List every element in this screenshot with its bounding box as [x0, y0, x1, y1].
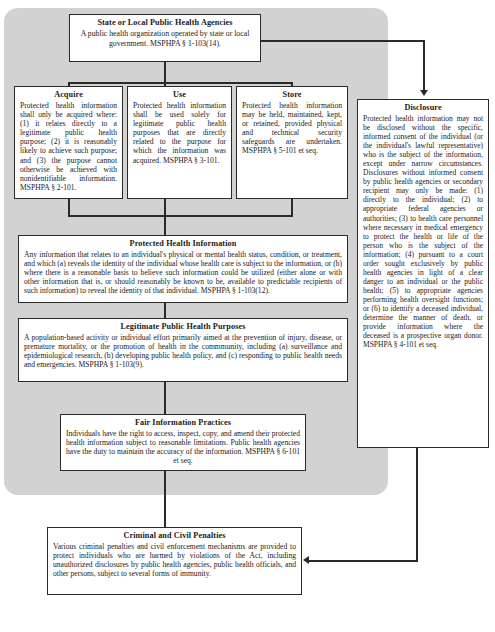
- box-body: Protected health information shall only …: [20, 101, 117, 192]
- box-state-or-local-public-health-agencies[interactable]: State or Local Public Health Agencies A …: [69, 14, 261, 62]
- connector-agencies-to-disclosure-v: [423, 40, 425, 90]
- box-title: Acquire: [20, 90, 117, 100]
- connector-lphp-to-fip: [164, 382, 166, 415]
- box-body: Protected health information shall be us…: [133, 101, 226, 165]
- connector-bottom-bus: [68, 215, 293, 217]
- box-title: State or Local Public Health Agencies: [75, 18, 255, 28]
- connector-agencies-to-disclosure-h: [261, 40, 424, 42]
- box-title: Fair Information Practices: [66, 418, 300, 428]
- box-store[interactable]: Store Protected health information may b…: [236, 86, 348, 199]
- box-disclosure[interactable]: Disclosure Protected health information …: [357, 99, 489, 448]
- arrowhead-into-penalties: [303, 556, 309, 564]
- connector-disclosure-to-penalties-h: [309, 560, 418, 562]
- box-body: A population-based activity or individua…: [24, 333, 342, 369]
- connector-phi-to-lphp: [164, 303, 166, 319]
- connector-store-down: [291, 199, 293, 216]
- connector-agencies-stem: [164, 62, 166, 83]
- box-body: Any information that relates to an indiv…: [24, 250, 342, 295]
- connector-use-down: [164, 199, 166, 216]
- box-body: A public health organization operated by…: [75, 29, 255, 50]
- connector-fip-to-penalties: [164, 471, 166, 528]
- box-body: Protected health information may not be …: [363, 114, 483, 349]
- connector-disclosure-down: [416, 448, 418, 561]
- box-use[interactable]: Use Protected health information shall b…: [127, 86, 232, 199]
- connector-top-bus: [68, 82, 292, 84]
- box-title: Disclosure: [363, 103, 483, 113]
- box-title: Use: [133, 90, 226, 100]
- box-title: Legitimate Public Health Purposes: [24, 322, 342, 332]
- connector-acquire-down: [68, 199, 70, 216]
- box-fair-information-practices[interactable]: Fair Information Practices Individuals h…: [60, 414, 306, 471]
- box-criminal-and-civil-penalties[interactable]: Criminal and Civil Penalties Various cri…: [47, 527, 302, 595]
- box-title: Protected Health Information: [24, 239, 342, 249]
- diagram-canvas: State or Local Public Health Agencies A …: [0, 0, 495, 632]
- box-legitimate-public-health-purposes[interactable]: Legitimate Public Health Purposes A popu…: [18, 318, 348, 382]
- box-title: Store: [242, 90, 342, 100]
- box-acquire[interactable]: Acquire Protected health information sha…: [14, 86, 123, 199]
- box-body: Various criminal penalties and civil enf…: [53, 542, 296, 578]
- arrowhead-into-disclosure: [420, 90, 428, 96]
- connector-bus-to-phi: [164, 215, 166, 236]
- box-body: Individuals have the right to access, in…: [66, 429, 300, 465]
- box-protected-health-information[interactable]: Protected Health Information Any informa…: [18, 235, 348, 303]
- box-body: Protected health information may be held…: [242, 101, 342, 156]
- box-title: Criminal and Civil Penalties: [53, 531, 296, 541]
